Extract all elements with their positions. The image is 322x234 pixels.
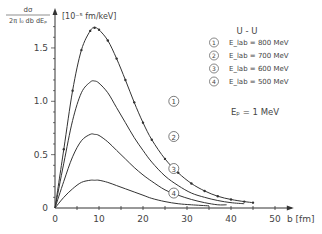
legend-entry: E_lab = 700 MeV [229, 52, 289, 60]
x-axis-label: b [fm] [287, 214, 315, 224]
data-point [63, 148, 65, 150]
y-tick-label: 1.5 [34, 43, 48, 53]
legend-entry: E_lab = 600 MeV [229, 65, 289, 73]
curve-label: 1 [172, 98, 176, 106]
data-point [164, 158, 166, 160]
data-point [151, 139, 153, 141]
x-tick-label: 0 [52, 214, 58, 224]
y-label-numerator: dσ [24, 6, 33, 14]
curve-label: 3 [172, 166, 176, 174]
data-point [115, 57, 117, 59]
series-4-curve [55, 180, 209, 208]
chart: 01020304050b [fm]00.51.01.5dσ2π l₀ db dE… [0, 0, 322, 234]
legend-marker-label: 2 [212, 52, 216, 59]
curve-label: 4 [172, 190, 177, 198]
y-tick-label: 1.0 [34, 96, 49, 106]
x-tick-label: 20 [137, 214, 149, 224]
data-point [142, 121, 144, 123]
x-tick-label: 30 [181, 214, 193, 224]
data-point [124, 79, 126, 81]
y-tick-label: 0.5 [34, 150, 48, 160]
data-point [243, 200, 245, 202]
data-point [80, 49, 82, 51]
data-point [89, 30, 91, 32]
series-2-curve [55, 81, 244, 208]
legend-entry: E_lab = 800 MeV [229, 39, 289, 47]
legend-title: U - U [237, 26, 258, 36]
x-tick-label: 10 [93, 214, 105, 224]
data-point [71, 89, 73, 91]
series-3-curve [55, 134, 227, 208]
data-point [252, 201, 254, 203]
x-tick-label: 50 [269, 214, 281, 224]
data-point [230, 198, 232, 200]
data-point [133, 101, 135, 103]
y-tick-label: 0 [42, 203, 48, 213]
x-axis-arrow-icon [287, 206, 294, 211]
legend-marker-label: 1 [212, 39, 216, 46]
data-point [203, 190, 205, 192]
y-unit-label: [10⁻⁵ fm/keV] [62, 12, 116, 21]
data-point [190, 182, 192, 184]
data-point [217, 195, 219, 197]
annotation-ep: Eₚ = 1 MeV [231, 107, 279, 117]
legend-entry: E_lab = 500 MeV [229, 78, 289, 86]
y-label-denominator: 2π l₀ db dEₚ [9, 17, 47, 25]
legend-marker-label: 4 [212, 78, 216, 85]
data-point [93, 26, 95, 28]
legend-marker-label: 3 [212, 65, 216, 72]
curve-label: 2 [172, 134, 176, 142]
data-point [98, 29, 100, 31]
x-tick-label: 40 [225, 214, 237, 224]
data-point [107, 39, 109, 41]
y-axis-arrow-icon [53, 8, 58, 15]
